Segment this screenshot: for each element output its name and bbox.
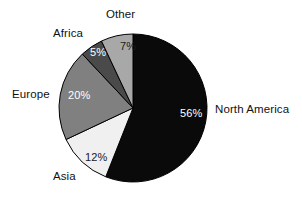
slice-label-africa: Africa — [53, 27, 83, 39]
slice-value-other: 7% — [120, 40, 136, 52]
slice-value-africa: 5% — [90, 46, 106, 58]
pie-chart: Other Africa Europe Asia North America 7… — [0, 0, 302, 205]
slice-label-asia: Asia — [53, 170, 76, 182]
slice-value-asia: 12% — [85, 151, 107, 163]
slice-label-other: Other — [106, 8, 135, 20]
slice-value-north-america: 56% — [180, 107, 202, 119]
slice-label-europe: Europe — [12, 88, 50, 100]
slice-value-europe: 20% — [68, 89, 90, 101]
slice-label-north-america: North America — [215, 103, 289, 115]
